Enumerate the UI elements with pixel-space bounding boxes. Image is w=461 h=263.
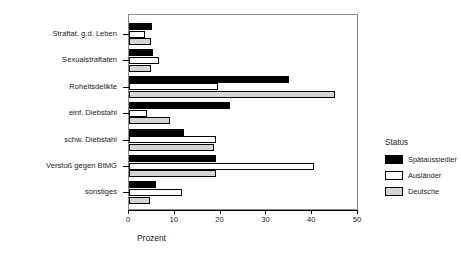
bar-deutsche (129, 65, 151, 72)
y-axis-label: Straftat. g.d. Leben (52, 29, 117, 38)
legend-label: Spätaussiedler (408, 155, 457, 164)
bar-deutsche (129, 170, 216, 177)
bar-group (129, 155, 358, 181)
bar-deutsche (129, 38, 151, 45)
bar-auslaender (129, 83, 218, 90)
bar-group (129, 49, 358, 75)
y-axis-tick (123, 34, 129, 35)
y-axis-label: Roheitsdelikte (69, 82, 117, 91)
bar-group (129, 23, 358, 49)
bar-spataussiedler (129, 49, 153, 56)
bar-group (129, 76, 358, 102)
y-axis-label: schw. Diebstahl (64, 135, 117, 144)
y-axis-tick (123, 166, 129, 167)
y-axis-tick (123, 87, 129, 88)
x-axis-tick-label: 10 (170, 215, 178, 224)
y-axis-tick (123, 140, 129, 141)
bar-auslaender (129, 163, 314, 170)
x-axis-line (128, 210, 358, 211)
x-axis-tick (265, 210, 266, 214)
x-axis-tick-label: 0 (126, 215, 130, 224)
bar-spataussiedler (129, 102, 230, 109)
bar-auslaender (129, 57, 159, 64)
legend-item-spataussiedler[interactable]: Spätaussiedler (385, 155, 461, 164)
x-axis-tick (220, 210, 221, 214)
legend-entries: SpätaussiedlerAusländerDeutsche (385, 155, 461, 196)
bar-group (129, 129, 358, 155)
x-axis-tick-label: 30 (261, 215, 269, 224)
x-axis-tick (311, 210, 312, 214)
legend-label: Ausländer (408, 171, 441, 180)
bar-auslaender (129, 189, 182, 196)
legend: Status SpätaussiedlerAusländerDeutsche (385, 138, 461, 203)
x-axis-tick (357, 210, 358, 214)
bar-deutsche (129, 91, 335, 98)
y-axis-label: Sexualstraftaten (62, 55, 117, 64)
x-axis-tick (128, 210, 129, 214)
legend-swatch-auslaender (385, 171, 403, 180)
bar-group (129, 181, 358, 207)
x-axis-tick (174, 210, 175, 214)
bar-spataussiedler (129, 23, 152, 30)
x-axis-title: Prozent (137, 233, 166, 243)
y-axis-label: einf. Diebstahl (69, 108, 117, 117)
y-axis-tick (123, 113, 129, 114)
legend-label: Deutsche (408, 187, 439, 196)
bars-layer (129, 15, 358, 209)
x-axis-tick-label: 50 (353, 215, 361, 224)
bar-deutsche (129, 144, 214, 151)
bar-auslaender (129, 31, 145, 38)
legend-swatch-spataussiedler (385, 155, 403, 164)
bar-spataussiedler (129, 76, 289, 83)
bar-chart: 01020304050 Prozent Straftat. g.d. Leben… (0, 0, 461, 263)
legend-item-auslaender[interactable]: Ausländer (385, 171, 461, 180)
bar-group (129, 102, 358, 128)
legend-item-deutsche[interactable]: Deutsche (385, 187, 461, 196)
y-axis-label: Verstoß gegen BtMG (46, 161, 117, 170)
x-axis-tick-label: 40 (307, 215, 315, 224)
y-axis-tick (123, 192, 129, 193)
y-axis-tick (123, 60, 129, 61)
bar-auslaender (129, 110, 147, 117)
y-axis-label: sonstiges (85, 187, 117, 196)
bar-spataussiedler (129, 129, 184, 136)
x-axis-tick-label: 20 (215, 215, 223, 224)
legend-swatch-deutsche (385, 187, 403, 196)
bar-spataussiedler (129, 155, 216, 162)
bar-deutsche (129, 117, 170, 124)
bar-auslaender (129, 136, 216, 143)
bar-spataussiedler (129, 181, 156, 188)
legend-title: Status (385, 138, 461, 147)
bar-deutsche (129, 197, 150, 204)
